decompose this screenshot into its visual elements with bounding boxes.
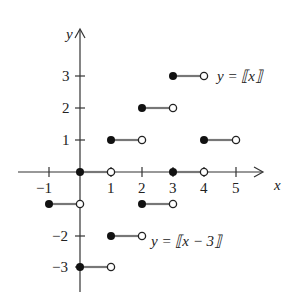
x-tick-label: 2 <box>138 180 146 196</box>
x-tick-label: 1 <box>107 180 115 196</box>
x-axis-label: x <box>273 177 281 193</box>
y-tick-label: 2 <box>62 100 70 116</box>
y-tick-label: −2 <box>52 228 68 244</box>
x-tick-label: −1 <box>36 180 52 196</box>
x-tick-label: 4 <box>200 180 208 196</box>
y-tick-label: 1 <box>62 132 70 148</box>
y-tick-label: −3 <box>52 259 68 275</box>
y-axis-label: y <box>64 26 73 42</box>
curve-label-floor-x: y = ⟦x⟧ <box>215 68 264 84</box>
x-tick-label: 5 <box>232 180 240 196</box>
series-floor-x-minus-3 <box>45 136 240 271</box>
step-function-graph: −1 1 2 3 4 5 3 2 1 −2 −3 y x y = ⟦x⟧ y =… <box>0 0 301 307</box>
x-tick-label: 3 <box>169 180 177 196</box>
y-tick-label: 3 <box>62 68 70 84</box>
curve-label-floor-x-minus-3: y = ⟦x − 3⟧ <box>149 233 223 249</box>
series-floor-x <box>76 72 208 176</box>
